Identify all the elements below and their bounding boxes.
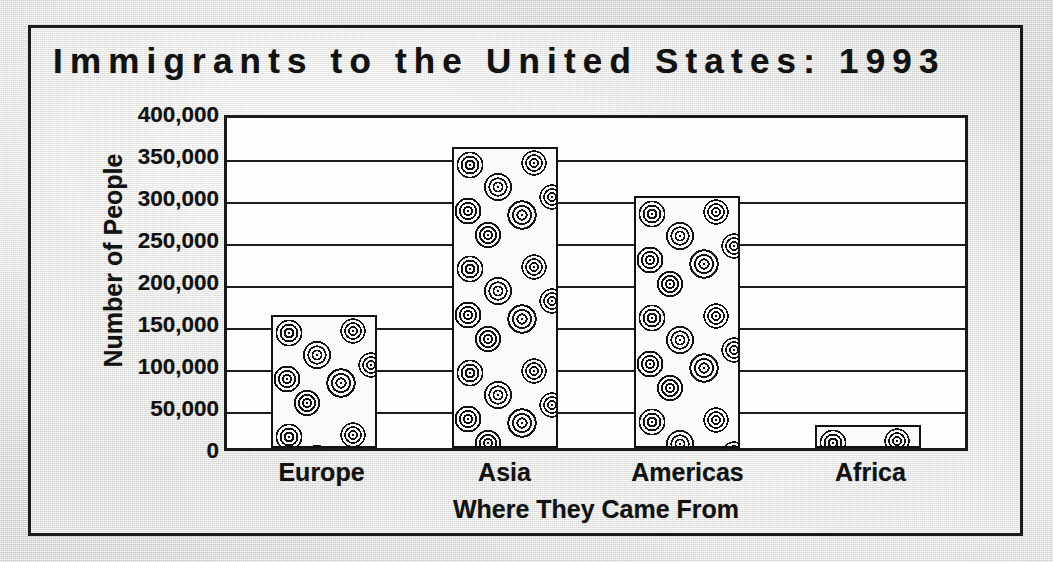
bar-asia[interactable]	[452, 147, 558, 448]
x-axis-tick-label: Asia	[413, 458, 596, 487]
x-axis-tick-label: Americas	[596, 458, 779, 487]
y-axis-tick-labels: 400,000350,000300,000250,000200,000150,0…	[89, 115, 219, 451]
y-axis-tick-label: 300,000	[89, 188, 219, 211]
source-publication: Information Please Almanac	[1022, 268, 1023, 475]
y-axis-tick-label: 50,000	[89, 398, 219, 421]
y-axis-tick-label: 400,000	[89, 104, 219, 127]
source-prefix: Source:	[1022, 475, 1023, 536]
bar-slot	[778, 118, 960, 448]
x-axis-title: Where They Came From	[224, 495, 968, 524]
y-axis-tick-label: 0	[89, 440, 219, 463]
x-axis-tick-label: Europe	[230, 458, 413, 487]
y-axis-tick-label: 350,000	[89, 146, 219, 169]
y-axis-tick-label: 200,000	[89, 272, 219, 295]
bar-slot	[233, 118, 415, 448]
y-axis-tick-label: 100,000	[89, 356, 219, 379]
x-axis-tick-labels: EuropeAsiaAmericasAfrica	[224, 458, 968, 487]
source-year: , 1995	[1022, 225, 1023, 268]
bar-africa[interactable]	[815, 425, 921, 448]
bar-series	[227, 118, 965, 448]
bar-europe[interactable]	[271, 315, 377, 448]
y-axis-tick-label: 250,000	[89, 230, 219, 253]
x-axis-tick-label: Africa	[779, 458, 962, 487]
plot-area	[224, 115, 968, 451]
bar-slot	[596, 118, 778, 448]
bar-slot	[415, 118, 597, 448]
y-axis-tick-label: 150,000	[89, 314, 219, 337]
chart-figure: Immigrants to the United States: 1993 Nu…	[28, 25, 1023, 536]
page-title: Immigrants to the United States: 1993	[53, 41, 993, 81]
bar-americas[interactable]	[634, 196, 740, 448]
source-note: Source: Information Please Almanac, 1995	[1022, 177, 1023, 536]
